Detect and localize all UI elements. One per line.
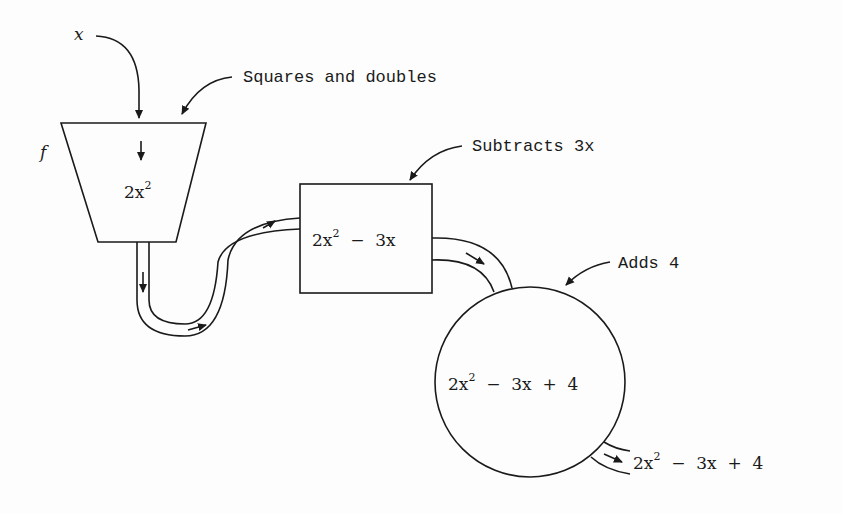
output-arrow-icon	[604, 454, 622, 462]
output-pipe-inner	[591, 457, 630, 474]
annotation-arrow-icon	[410, 146, 462, 180]
pipe2-outer	[432, 238, 512, 288]
stage-2-expression: 2x2 − 3x	[312, 227, 396, 250]
annotation-squares-and-doubles: Squares and doubles	[243, 68, 437, 87]
stage-3-expression: 2x2 − 3x + 4	[448, 371, 578, 394]
annotation-arrow-icon	[566, 262, 610, 285]
input-label: x	[74, 24, 84, 44]
pipe-right-arrow-icon	[188, 325, 206, 330]
pipe-inner	[149, 229, 300, 324]
function-label: f	[38, 142, 49, 162]
output-pipe-outer	[604, 442, 630, 451]
pipe2-inner	[432, 260, 494, 292]
output-expression: 2x2 − 3x + 4	[633, 450, 763, 473]
annotation-adds-4: Adds 4	[618, 254, 679, 273]
input-arrow-icon	[96, 36, 139, 118]
annotation-arrow-icon	[182, 77, 232, 114]
function-machine-diagram: x f Squares and doubles 2x2 Subtracts 3x…	[0, 0, 842, 514]
pipe2-arrow-icon	[466, 253, 484, 264]
annotation-subtracts-3x: Subtracts 3x	[472, 137, 594, 156]
